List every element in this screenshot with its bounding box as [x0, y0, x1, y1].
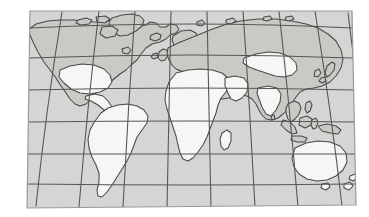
map-plate — [20, 6, 366, 214]
world-map-figure: World map curved graticule (pseudo-cylin… — [0, 0, 369, 217]
world-map-canvas — [0, 0, 369, 217]
paper-grain-overlay — [20, 6, 362, 214]
